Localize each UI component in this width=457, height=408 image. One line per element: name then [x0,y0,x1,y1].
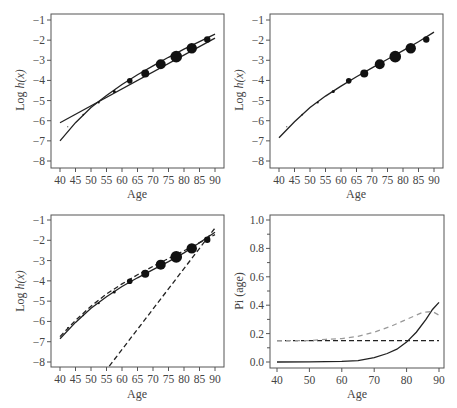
x-tick-label: 70 [147,373,159,385]
data-point [406,43,416,53]
y-tick-label: −8 [33,155,45,167]
data-point [317,102,319,104]
y-tick-label: 1.0 [250,214,265,226]
data-point [170,251,182,263]
y-tick-label: −1 [33,14,45,26]
data-point [375,59,385,69]
x-tick-label: 40 [271,374,283,386]
x-tick-label: 75 [163,373,175,385]
x-tick-label: 80 [397,174,409,186]
x-tick-label: 50 [304,374,316,386]
y-tick-label: −7 [33,135,45,147]
y-tick-label: −6 [33,315,45,327]
y-axis-label: Log h(x) [13,270,27,312]
x-tick-label: 75 [382,174,394,186]
x-tick-label: 70 [147,174,159,186]
data-point [82,114,84,116]
figure: 4045505560657075808590−1−2−3−4−5−6−7−8Ag… [0,0,457,408]
x-tick-label: 70 [368,374,380,386]
plot-area [279,32,434,138]
panel-pi-age: 4050607080900.00.20.40.60.81.0AgePi (age… [232,214,445,401]
data-point [187,43,197,53]
plot-area [277,302,439,362]
plot-area [60,34,215,141]
data-point [286,126,287,127]
x-tick-label: 45 [289,174,301,186]
x-tick-label: 80 [178,174,190,186]
data-point [156,260,166,270]
y-tick-label: −4 [252,74,264,86]
series-line [109,228,215,366]
x-tick-label: 45 [70,174,82,186]
data-point [204,36,210,42]
data-point [360,69,368,77]
x-tick-label: 70 [366,174,378,186]
data-point [389,51,401,63]
plot-frame [51,14,224,168]
panel-log-hazard-mixture: 4045505560657075808590−1−2−3−4−5−6−7−8Ag… [13,214,224,401]
y-tick-label: −2 [33,34,45,46]
x-tick-label: 85 [194,174,206,186]
y-tick-label: −7 [33,336,45,348]
data-point [346,78,352,84]
plot-frame [270,14,443,168]
x-tick-label: 85 [194,373,206,385]
data-point [113,90,116,93]
x-tick-label: 90 [209,373,221,385]
data-point [204,236,210,242]
y-axis-label: Log h(x) [232,69,246,111]
data-point [98,302,100,304]
y-tick-label: −3 [252,54,264,66]
x-tick-label: 80 [178,373,190,385]
panel-log-hazard-single-fit: 4045505560657075808590−1−2−3−4−5−6−7−8Ag… [232,14,443,201]
y-tick-label: −8 [252,155,264,167]
data-point [127,78,133,84]
data-point [301,114,303,116]
plot-frame [51,215,224,367]
x-axis-label: Age [127,387,147,401]
data-point [141,69,149,77]
x-tick-label: 55 [101,174,113,186]
x-tick-label: 60 [335,174,347,186]
x-tick-label: 55 [320,174,332,186]
x-tick-label: 50 [85,373,97,385]
y-tick-label: −4 [33,74,45,86]
y-tick-label: −1 [33,214,45,226]
x-tick-label: 60 [116,373,128,385]
x-tick-label: 60 [336,374,348,386]
x-axis-label: Age [347,387,367,401]
x-tick-label: 50 [304,174,316,186]
data-point [423,36,429,42]
panel-log-hazard-two-fits: 4045505560657075808590−1−2−3−4−5−6−7−8Ag… [13,14,224,201]
x-tick-label: 65 [132,174,144,186]
y-tick-label: −6 [33,115,45,127]
x-tick-label: 65 [132,373,144,385]
data-point [82,315,84,317]
x-axis-label: Age [127,187,147,201]
data-point [187,243,197,253]
x-tick-label: 80 [401,374,413,386]
x-tick-label: 50 [85,174,97,186]
y-tick-label: −3 [33,255,45,267]
y-tick-label: −3 [33,54,45,66]
x-tick-label: 40 [273,174,285,186]
y-axis-label: Pi (age) [232,272,246,310]
x-tick-label: 90 [209,174,221,186]
x-axis-label: Age [346,187,366,201]
y-tick-label: −5 [33,95,45,107]
data-point [170,51,182,63]
data-point [113,291,116,294]
y-tick-label: −2 [33,234,45,246]
y-tick-label: −7 [252,135,264,147]
plot-area [60,228,215,366]
data-point [67,126,68,127]
y-tick-label: −5 [252,95,264,107]
y-tick-label: −2 [252,34,264,46]
y-tick-label: 0.2 [250,328,265,340]
y-tick-label: 0.0 [250,356,265,368]
x-tick-label: 75 [163,174,175,186]
x-tick-label: 65 [351,174,363,186]
y-tick-label: −8 [33,356,45,368]
x-tick-label: 90 [433,374,445,386]
data-point [156,59,166,69]
